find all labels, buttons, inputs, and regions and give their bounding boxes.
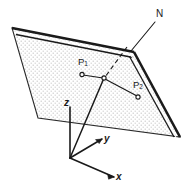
point-p1-marker (80, 72, 84, 76)
point-p2-subscript: 2 (139, 83, 143, 90)
normal-label: N (156, 9, 163, 19)
point-p2-marker (136, 95, 140, 99)
axis-y-label: y (104, 134, 110, 144)
normal-leader-line (131, 22, 155, 51)
axis-z-label: z (64, 98, 69, 108)
point-p1-label: P1 (78, 57, 88, 68)
point-p2-label: P2 (133, 80, 143, 91)
junction-marker (102, 76, 106, 80)
point-p1-subscript: 1 (84, 60, 88, 67)
axis-x-label: x (116, 172, 122, 182)
geometry-figure: N P1 P2 z y x (0, 0, 192, 196)
figure-canvas (0, 0, 192, 196)
